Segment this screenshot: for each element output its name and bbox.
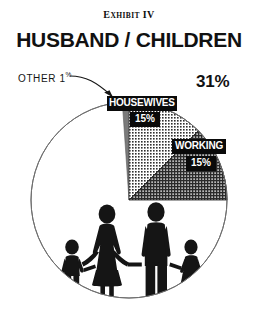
- segment-label-housewives: HOUSEWIVES: [107, 96, 177, 111]
- callout-other: OTHER 1%: [18, 71, 71, 84]
- callout-other-percent: %: [66, 71, 72, 78]
- page-title: HUSBAND / CHILDREN: [0, 28, 258, 52]
- exhibit-label: EXHIBIT IV: [0, 9, 258, 20]
- other-leader-line: [70, 76, 113, 97]
- callout-other-text: OTHER 1: [18, 73, 66, 84]
- callout-bracket-total: 31%: [196, 72, 229, 92]
- segment-value-housewives: 15%: [130, 112, 160, 127]
- exhibit-number: IV: [143, 9, 155, 20]
- segment-label-working: WORKING: [172, 139, 226, 154]
- exhibit-word: XHIBIT: [110, 11, 140, 20]
- segment-value-working: 15%: [186, 156, 216, 171]
